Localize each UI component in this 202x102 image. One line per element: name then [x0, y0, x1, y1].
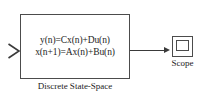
signal-connection-line[interactable] [130, 50, 165, 51]
block-diagram-canvas: y(n)=Cx(n)+Du(n) x(n+1)=Ax(n)+Bu(n) Disc… [0, 0, 202, 102]
discrete-state-space-label: Discrete State-Space [10, 81, 140, 91]
scope-block[interactable] [172, 36, 193, 57]
input-port-arrow-icon [7, 42, 21, 60]
state-space-equations: y(n)=Cx(n)+Du(n) x(n+1)=Ax(n)+Bu(n) [20, 35, 130, 58]
scope-screen-icon [176, 40, 189, 51]
scope-label: Scope [160, 58, 202, 68]
signal-arrowhead-icon [164, 47, 170, 53]
output-equation: y(n)=Cx(n)+Du(n) [20, 35, 130, 47]
state-equation: x(n+1)=Ax(n)+Bu(n) [20, 47, 130, 59]
